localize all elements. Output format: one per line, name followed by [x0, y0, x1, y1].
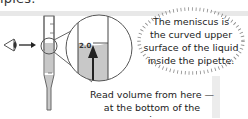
magnified-view	[60, 10, 140, 90]
callout-line-1: The meniscus is	[144, 15, 239, 28]
caption-line-1: Read volume from here —	[82, 89, 222, 102]
callout-bubble: The meniscus is the curved upper surface…	[140, 10, 242, 72]
scale-label: 2.0	[79, 42, 92, 50]
eye-icon	[4, 39, 17, 51]
callout-line-4: inside the pipette.	[144, 54, 239, 67]
pipette	[41, 16, 57, 110]
callout-line-3: surface of the liquid	[144, 41, 239, 54]
caption-line-2: at the bottom of the meniscus.	[82, 102, 222, 119]
caption: Read volume from here — at the bottom of…	[82, 89, 222, 118]
callout-line-2: the curved upper	[144, 28, 239, 41]
arrow-right-icon	[19, 42, 36, 48]
